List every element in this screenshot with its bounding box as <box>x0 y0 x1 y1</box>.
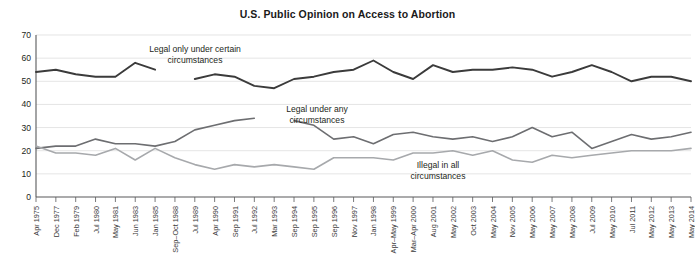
series-line-1 <box>36 118 254 148</box>
x-axis-tick-label: Jan 1985 <box>151 206 160 236</box>
x-axis-tick-label: May 1981 <box>111 206 120 238</box>
annotation-legal-certain-line2: circumstances <box>135 55 255 66</box>
x-axis-tick-label: Jan 1998 <box>369 206 378 236</box>
y-axis-tick-label: 30 <box>21 123 31 133</box>
x-axis-tick-label: Jun 1983 <box>131 206 140 236</box>
annotation-legal-any: Legal under any circumstances <box>262 104 372 126</box>
x-axis-tick-label: Mar–Apr 2000 <box>409 206 418 252</box>
x-axis-tick-label: May 2010 <box>608 206 617 238</box>
annotation-illegal-all-line2: circumstances <box>383 171 493 182</box>
x-axis-tick-label: Feb 1979 <box>72 206 81 237</box>
series-line-2 <box>36 146 691 169</box>
chart-container: U.S. Public Opinion on Access to Abortio… <box>0 0 695 275</box>
x-axis-tick-label: May 2013 <box>667 206 676 238</box>
annotation-illegal-all: Illegal in all circumstances <box>383 160 493 182</box>
x-axis-tick-label: Apr 1975 <box>32 206 41 236</box>
x-axis-tick-label: Sep 1994 <box>290 206 299 237</box>
x-axis-tick-label: Jul 2011 <box>628 206 637 233</box>
annotation-legal-certain: Legal only under certain circumstances <box>135 44 255 66</box>
x-axis-tick-label: Oct 2003 <box>469 206 478 236</box>
series-line-0 <box>195 61 691 89</box>
y-axis-tick-label: 70 <box>21 30 31 40</box>
x-axis-tick-label: Sep 1996 <box>330 206 339 237</box>
y-axis-tick-label: 40 <box>21 99 31 109</box>
x-axis-tick-label: May 2012 <box>647 206 656 238</box>
x-axis-tick-label: May 2007 <box>548 206 557 238</box>
x-axis-tick-label: Sep–Oct 1988 <box>171 206 180 253</box>
x-axis-tick-label: Jul 1989 <box>191 206 200 234</box>
x-axis-tick-label: Aug 2001 <box>429 206 438 237</box>
x-axis-tick-label: Dec 1977 <box>52 206 61 237</box>
x-axis-tick-label: Jul 2009 <box>588 206 597 234</box>
x-axis-tick-label: Nov 2005 <box>508 206 517 237</box>
x-axis-tick-label: May 2008 <box>568 206 577 238</box>
x-axis-tick-label: Nov 1997 <box>350 206 359 237</box>
plot-area: 010203040506070Apr 1975Dec 1977Feb 1979J… <box>0 0 695 275</box>
x-axis-tick-label: Mar 1993 <box>270 206 279 237</box>
x-axis-tick-label: May 2002 <box>449 206 458 238</box>
x-axis-tick-label: Apr–May 1999 <box>389 206 398 253</box>
annotation-legal-certain-line1: Legal only under certain <box>135 44 255 55</box>
x-axis-tick-label: May 2006 <box>528 206 537 238</box>
y-axis-tick-label: 0 <box>26 192 31 202</box>
annotation-legal-any-line1: Legal under any <box>262 104 372 115</box>
y-axis-tick-label: 20 <box>21 146 31 156</box>
x-axis-tick-label: Jul 1980 <box>92 206 101 234</box>
x-axis-tick-label: May 2004 <box>489 206 498 238</box>
x-axis-tick-label: Sep 1995 <box>310 206 319 237</box>
annotation-legal-any-line2: circumstances <box>262 115 372 126</box>
x-axis-tick-label: Apr 1990 <box>211 206 220 236</box>
chart-svg: 010203040506070Apr 1975Dec 1977Feb 1979J… <box>0 0 695 275</box>
y-axis-tick-label: 50 <box>21 76 31 86</box>
x-axis-tick-label: May 2014 <box>687 206 695 238</box>
y-axis-tick-label: 10 <box>21 169 31 179</box>
annotation-illegal-all-line1: Illegal in all <box>383 160 493 171</box>
y-axis-tick-label: 60 <box>21 53 31 63</box>
x-axis-tick-label: Jul 1992 <box>250 206 259 234</box>
x-axis-tick-label: Sep 1991 <box>231 206 240 237</box>
